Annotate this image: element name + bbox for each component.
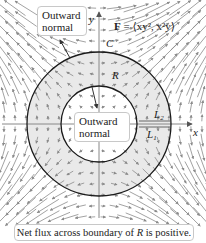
field-arrow bbox=[76, 205, 86, 207]
field-arrow bbox=[192, 0, 206, 17]
field-arrow bbox=[70, 116, 71, 119]
field-arrow bbox=[197, 73, 206, 97]
field-arrow bbox=[146, 2, 169, 14]
field-arrow bbox=[52, 48, 66, 56]
field-arrow bbox=[0, 74, 9, 96]
field-arrow bbox=[164, 165, 175, 181]
field-arrow bbox=[48, 212, 70, 221]
field-arrow bbox=[174, 64, 187, 85]
field-arrow bbox=[14, 135, 16, 144]
field-arrow bbox=[130, 192, 143, 199]
field-arrow bbox=[0, 196, 13, 216]
caption-box: Net flux across boundary of R is positiv… bbox=[14, 224, 194, 241]
field-definition: = ⟨xy², x²y⟩ bbox=[121, 20, 175, 32]
field-arrow bbox=[15, 1, 37, 15]
field-arrow bbox=[181, 0, 201, 16]
field-arrow bbox=[179, 136, 181, 145]
inner-normal-arrow bbox=[92, 87, 97, 108]
segment-l1-label: L1 bbox=[147, 129, 157, 144]
field-arrow bbox=[112, 150, 115, 152]
field-arrow bbox=[201, 101, 203, 114]
field-arrow bbox=[0, 31, 13, 51]
field-arrow bbox=[77, 51, 85, 53]
callout-text: normal bbox=[79, 127, 125, 139]
field-arrow bbox=[69, 138, 71, 141]
field-arrow bbox=[79, 150, 82, 152]
callout-text: normal bbox=[42, 21, 82, 33]
field-arrow bbox=[25, 103, 27, 111]
field-arrow bbox=[120, 50, 130, 54]
callout-text: Outward bbox=[79, 115, 125, 127]
field-arrow bbox=[172, 174, 187, 195]
field-arrow bbox=[139, 190, 155, 201]
field-arrow bbox=[187, 74, 196, 95]
field-arrow bbox=[13, 144, 17, 157]
region-label-r: R bbox=[112, 70, 119, 81]
field-arrow bbox=[159, 209, 180, 225]
field-arrow bbox=[52, 191, 66, 199]
field-arrow bbox=[75, 216, 87, 218]
field-arrow bbox=[37, 34, 59, 48]
field-arrow bbox=[3, 101, 5, 112]
field-arrow bbox=[32, 167, 42, 180]
field-arrow bbox=[32, 68, 42, 81]
field-arrow bbox=[91, 106, 94, 107]
field-symbol: F bbox=[114, 20, 121, 32]
field-arrow bbox=[129, 49, 142, 56]
field-arrow bbox=[22, 78, 30, 92]
field-arrow bbox=[196, 161, 206, 184]
field-arrow bbox=[24, 146, 28, 157]
field-arrow bbox=[189, 88, 194, 104]
y-axis-label: y bbox=[89, 14, 94, 25]
field-arrow bbox=[120, 193, 130, 197]
caption-text: Net flux across boundary of bbox=[17, 227, 137, 238]
segment-l2-label: L2 bbox=[154, 109, 164, 124]
field-arrow bbox=[102, 107, 105, 108]
field-arrow bbox=[113, 106, 115, 108]
field-arrow bbox=[107, 7, 121, 9]
field-arrow bbox=[190, 102, 192, 113]
field-arrow bbox=[24, 91, 28, 102]
field-arrow bbox=[179, 102, 181, 111]
field-arrow bbox=[167, 91, 171, 101]
field-arrow bbox=[90, 151, 93, 152]
field-arrow bbox=[27, 198, 48, 214]
field-arrow bbox=[187, 152, 196, 173]
field-arrow bbox=[117, 215, 132, 219]
field-arrow bbox=[148, 44, 167, 60]
field-arrow bbox=[182, 31, 199, 50]
field-arrow bbox=[149, 187, 168, 203]
field-arrow bbox=[112, 95, 115, 97]
field-arrow bbox=[42, 58, 55, 69]
field-arrow bbox=[194, 31, 206, 51]
field-arrow bbox=[170, 209, 190, 226]
field-arrow bbox=[119, 204, 132, 208]
curve-label-c: C bbox=[106, 38, 113, 49]
field-arrow bbox=[178, 145, 182, 158]
field-arrow bbox=[109, 216, 119, 218]
field-formula: F = ⟨xy², x²y⟩ bbox=[114, 20, 175, 32]
field-arrow bbox=[161, 175, 177, 194]
field-arrow bbox=[165, 78, 172, 91]
field-arrow bbox=[163, 66, 174, 82]
field-arrow bbox=[2, 143, 7, 159]
field-arrow bbox=[63, 204, 77, 209]
callout-text: Outward bbox=[42, 9, 82, 21]
field-arrow bbox=[190, 135, 192, 145]
field-arrow bbox=[69, 105, 71, 108]
field-arrow bbox=[0, 151, 8, 173]
field-arrow bbox=[22, 155, 29, 169]
field-arrow bbox=[110, 205, 119, 207]
caption-text: is positive. bbox=[143, 227, 191, 238]
field-arrow bbox=[80, 106, 82, 108]
field-arrow bbox=[3, 135, 5, 146]
field-arrow bbox=[42, 179, 54, 190]
field-arrow bbox=[16, 209, 36, 225]
field-arrow bbox=[124, 105, 126, 108]
field-arrow bbox=[0, 63, 10, 86]
field-arrow bbox=[13, 89, 18, 103]
field-arrow bbox=[172, 53, 188, 74]
field-arrow bbox=[0, 21, 13, 39]
field-arrow bbox=[119, 39, 132, 43]
field-arrow bbox=[76, 40, 86, 42]
